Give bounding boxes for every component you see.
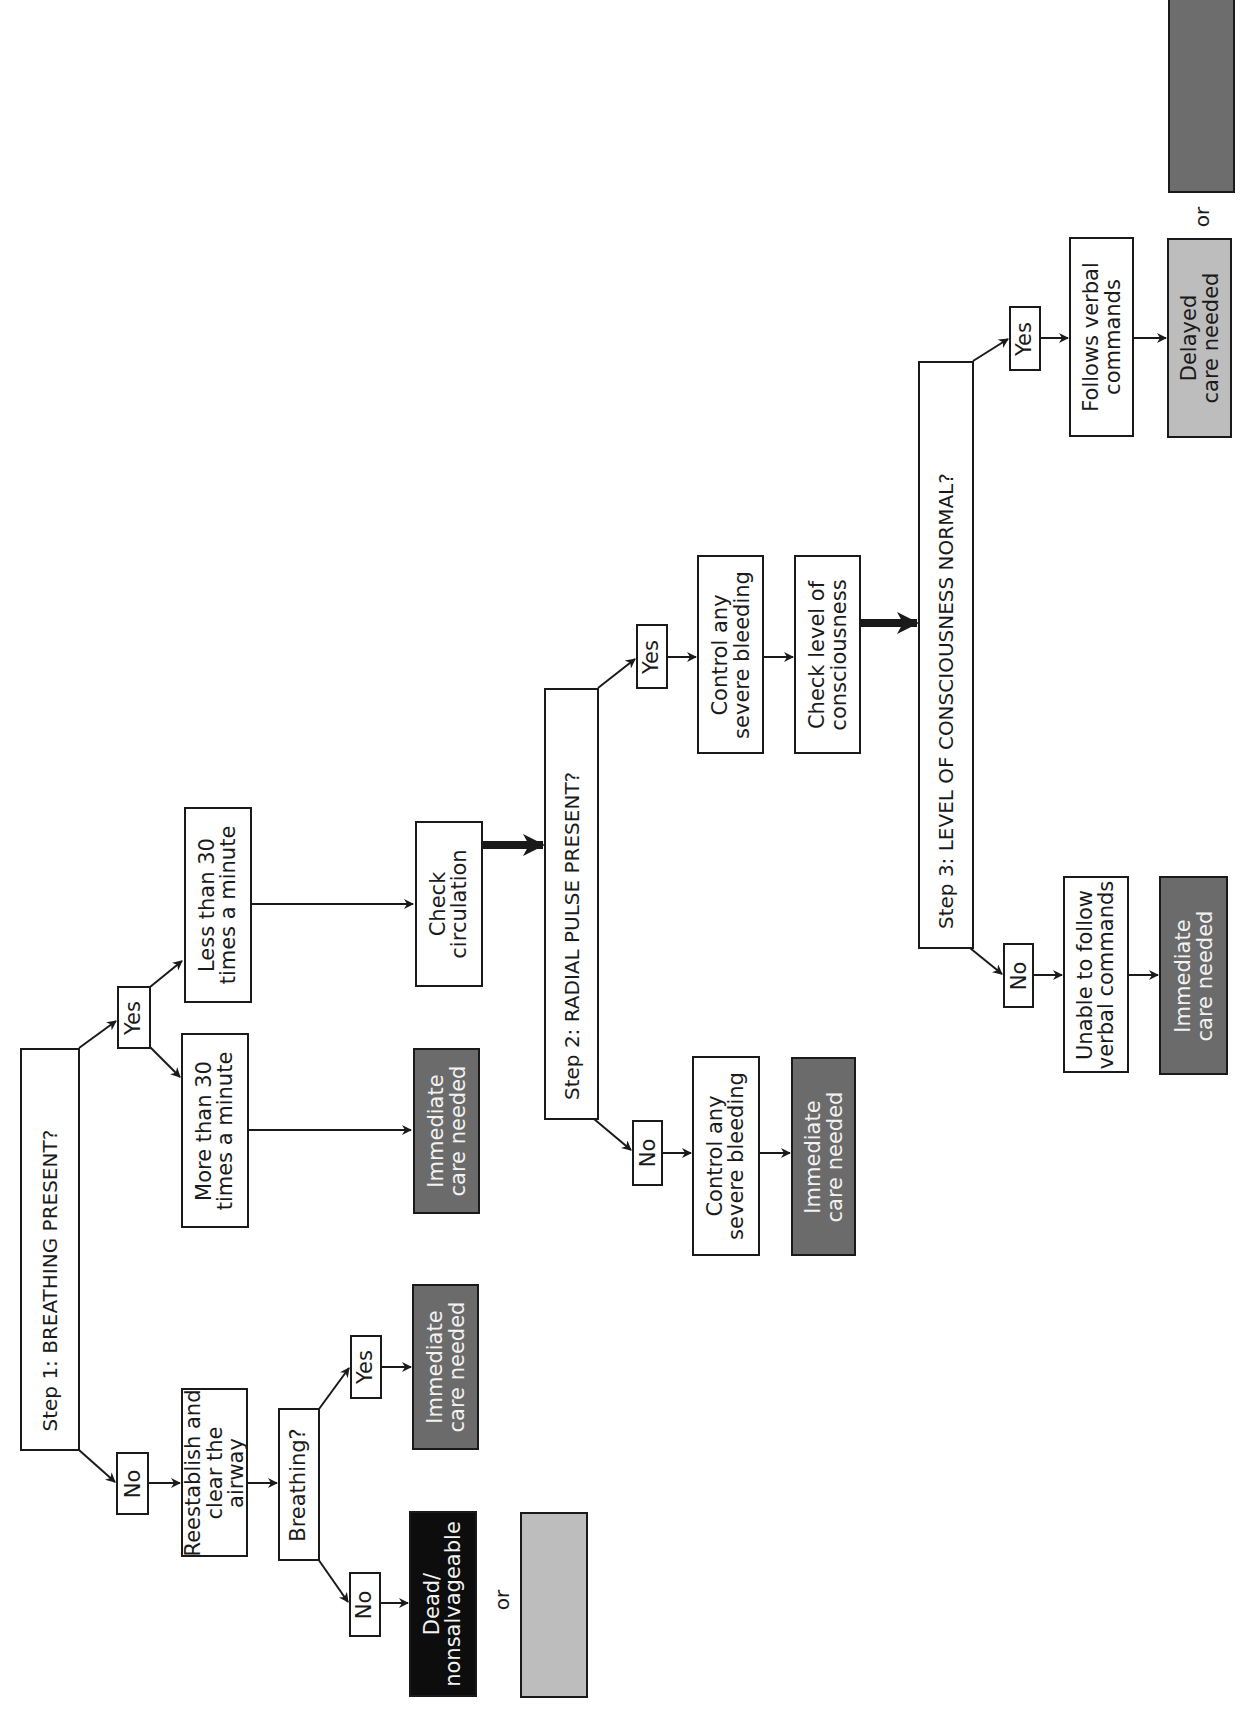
- step2-yes-label: Yes: [636, 624, 668, 689]
- unable-follow-commands-box: Unable to follow verbal commands: [1063, 876, 1129, 1073]
- breathing-recheck-question: Breathing?: [278, 1408, 320, 1561]
- more-than-30-box: More than 30 times a minute: [181, 1033, 249, 1228]
- follows-commands-box: Follows verbal commands: [1069, 237, 1134, 437]
- step1-breathing-question: Step 1: BREATHING PRESENT?: [20, 1048, 80, 1451]
- step1-yes-label: Yes: [117, 986, 151, 1049]
- step1-no-label: No: [116, 1452, 149, 1515]
- reestablish-airway-box: Reestablish and clear the airway: [181, 1388, 248, 1557]
- control-bleeding-no-box: Control any severe bleeding: [692, 1056, 760, 1256]
- delayed-care-box: Delayed care needed: [1167, 238, 1232, 438]
- check-consciousness-box: Check level of consciousness: [794, 555, 861, 754]
- dark-gray-category-box: [1168, 0, 1235, 193]
- step3-no-label: No: [1003, 943, 1034, 1008]
- or-label-delayed: or: [1190, 207, 1214, 227]
- step2-question-text: Step 2: RADIAL PULSE PRESENT?: [544, 688, 599, 1120]
- breathing-yes-label: Yes: [350, 1335, 382, 1399]
- step2-radial-pulse-question: Step 2: RADIAL PULSE PRESENT?: [544, 688, 599, 1120]
- step1-question-text: Step 1: BREATHING PRESENT?: [20, 1048, 80, 1451]
- gray-category-box: [520, 1512, 588, 1698]
- breathing-no-label: No: [349, 1572, 381, 1637]
- or-label-dead: or: [490, 1590, 514, 1610]
- step3-question-text: Step 3: LEVEL OF CONSCIOUSNESS NORMAL?: [918, 361, 974, 949]
- control-bleeding-yes-box: Control any severe bleeding: [697, 555, 764, 754]
- immediate-care-restored-breathing: Immediate care needed: [412, 1284, 479, 1450]
- step3-consciousness-question: Step 3: LEVEL OF CONSCIOUSNESS NORMAL?: [918, 361, 974, 949]
- immediate-care-unconscious: Immediate care needed: [1159, 876, 1228, 1075]
- check-circulation-box: Check circulation: [415, 821, 483, 987]
- step3-yes-label: Yes: [1009, 306, 1041, 371]
- less-than-30-box: Less than 30 times a minute: [184, 807, 252, 1003]
- dead-nonsalvageable-box: Dead/ nonsalvageable: [409, 1511, 477, 1697]
- step2-no-label: No: [632, 1120, 663, 1186]
- immediate-care-rapid-breathing: Immediate care needed: [413, 1048, 480, 1214]
- immediate-care-no-pulse: Immediate care needed: [791, 1057, 856, 1256]
